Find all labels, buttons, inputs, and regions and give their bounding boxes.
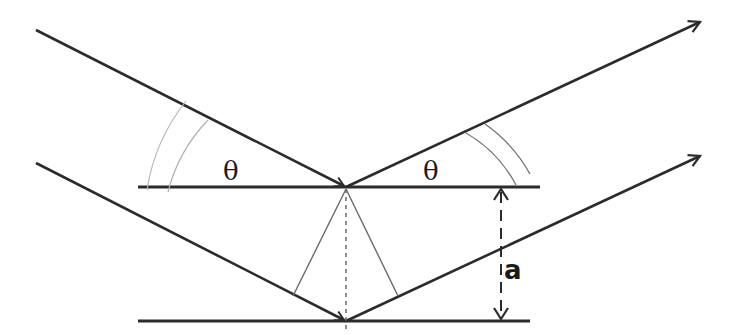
angle-label-reflected: θ (423, 156, 439, 186)
path-difference-line-right (346, 189, 398, 296)
incident-ray-1 (36, 30, 344, 186)
path-difference-line-left (293, 189, 346, 296)
spacing-label: a (504, 255, 522, 285)
angle-arc-incident-inner (168, 120, 208, 192)
angle-label-incident: θ (223, 156, 239, 186)
angle-arc-incident-outer (147, 101, 186, 190)
angle-arc-reflected-inner (466, 133, 516, 185)
angle-arc-reflected-outer (485, 124, 530, 174)
reflected-ray-2 (346, 156, 700, 321)
bragg-diffraction-diagram: θ θ a (0, 0, 738, 335)
